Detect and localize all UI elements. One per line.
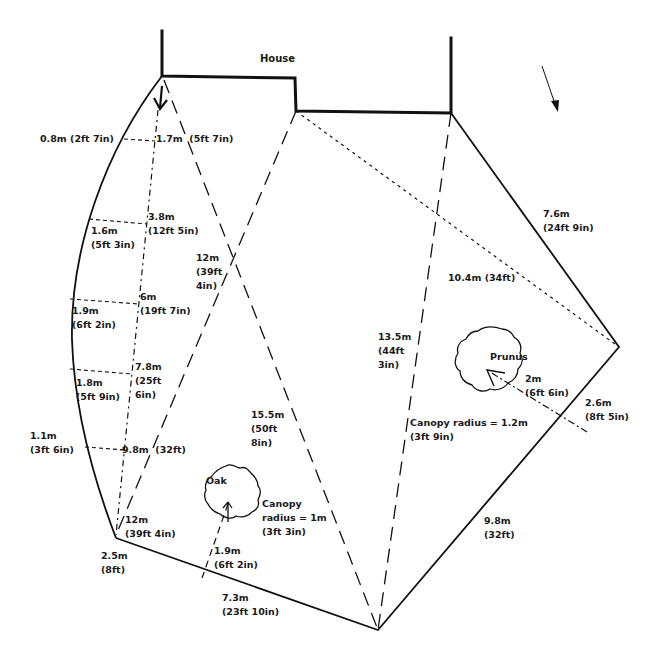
house-label: House xyxy=(260,52,295,66)
boundary-label-1: 7.6m(24ft 9in) xyxy=(543,207,594,235)
offset-label-1: 0.8m (2ft 7in) xyxy=(40,132,114,146)
boundary-label-4: 7.3m(23ft 10in) xyxy=(222,591,279,619)
baseline-label-3: 6m(19ft 7in) xyxy=(140,290,191,318)
boundary-label-5: 2.5m(8ft) xyxy=(101,549,128,577)
offset-label-5: 1.1m(3ft 6in) xyxy=(30,429,74,457)
prunus-distance-label: 2m(6ft 6in) xyxy=(525,372,569,400)
offset-label-3: 1.9m(6ft 2in) xyxy=(72,304,116,332)
diagonal-label-5: 12m(39ft 4in) xyxy=(125,513,176,541)
oak-label: Oak xyxy=(206,474,227,488)
prunus-label: Prunus xyxy=(490,350,528,364)
baseline-label-5: 9.8m (32ft) xyxy=(122,443,186,457)
prunus-canopy-label: Canopy radius = 1.2m(3ft 9in) xyxy=(410,416,528,444)
diagonal-label-1: 12m(39ft4in) xyxy=(196,251,222,293)
baseline xyxy=(116,110,158,535)
offset-label-2: 1.6m(5ft 3in) xyxy=(91,224,135,252)
baseline-label-1: 1.7m (5ft 7in) xyxy=(156,132,233,146)
diagonal-label-2: 15.5m(50ft8in) xyxy=(251,408,284,450)
oak-canopy-label: Canopyradius = 1m(3ft 3in) xyxy=(262,497,327,539)
garden-boundary xyxy=(72,76,619,630)
boundary-label-3: 9.8m(32ft) xyxy=(484,514,515,542)
boundary-label-2: 2.6m(8ft 5in) xyxy=(585,396,629,424)
diagonal-label-4: 10.4m (34ft) xyxy=(448,271,515,285)
offset-label-4: 1.8m(5ft 9in) xyxy=(76,376,120,404)
oak-distance-label: 1.9m(6ft 2in) xyxy=(214,544,258,572)
baseline-label-4: 7.8m(25ft6in) xyxy=(135,360,162,402)
direction-arrow-icon xyxy=(542,66,559,112)
baseline-label-2: 3.8m(12ft 5in) xyxy=(148,210,199,238)
diagonal-label-3: 13.5m(44ft3in) xyxy=(378,330,411,372)
arrow-down-icon xyxy=(154,86,167,109)
house-outline xyxy=(162,31,451,113)
